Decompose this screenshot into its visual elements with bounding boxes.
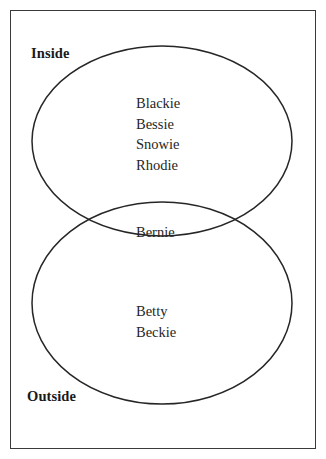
- venn-diagram-page: Inside Outside Blackie Bessie Snowie Rho…: [0, 0, 326, 459]
- list-item: Bernie: [136, 222, 175, 243]
- list-item: Bessie: [136, 114, 180, 135]
- intersection-member-list: Bernie: [136, 222, 175, 243]
- outside-region-label: Outside: [27, 388, 76, 405]
- list-item: Rhodie: [136, 155, 180, 176]
- outside-only-member-list: Betty Beckie: [136, 301, 176, 342]
- list-item: Betty: [136, 301, 176, 322]
- list-item: Blackie: [136, 93, 180, 114]
- list-item: Snowie: [136, 134, 180, 155]
- inside-region-label: Inside: [31, 45, 69, 62]
- inside-only-member-list: Blackie Bessie Snowie Rhodie: [136, 93, 180, 175]
- list-item: Beckie: [136, 322, 176, 343]
